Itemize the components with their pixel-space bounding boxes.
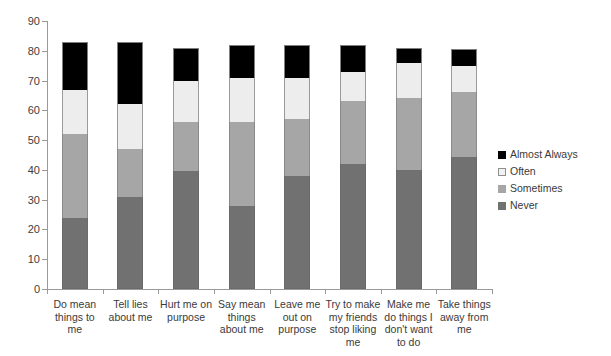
chart-legend: Almost AlwaysOftenSometimesNever xyxy=(498,146,610,214)
legend-item-label: Often xyxy=(510,166,536,177)
bar-segment-sometimes[interactable] xyxy=(340,101,366,164)
legend-item-label: Never xyxy=(510,200,538,211)
bar-group xyxy=(381,21,437,289)
legend-item[interactable]: Sometimes xyxy=(498,180,610,197)
bar-segment-sometimes[interactable] xyxy=(284,119,310,176)
x-axis-tick xyxy=(270,289,271,294)
x-axis-category-label: Tell lies about me xyxy=(103,298,159,323)
stacked-bar[interactable] xyxy=(396,48,422,289)
x-axis-category-label: Try to make my friends stop liking me xyxy=(325,298,381,348)
bar-segment-often[interactable] xyxy=(396,63,422,99)
bar-segment-almost-always[interactable] xyxy=(117,42,143,105)
y-axis-tick-label: 40 xyxy=(4,164,40,175)
bar-segment-sometimes[interactable] xyxy=(62,134,88,217)
bar-segment-often[interactable] xyxy=(340,72,366,102)
often-swatch-icon xyxy=(498,168,506,176)
bar-group xyxy=(158,21,214,289)
x-axis-category-label: Hurt me on purpose xyxy=(158,298,214,323)
legend-item[interactable]: Almost Always xyxy=(498,146,610,163)
x-axis-tick xyxy=(158,289,159,294)
x-axis-category-label: Make me do things I don't want to do xyxy=(381,298,437,348)
x-axis-category-label: Say mean things about me xyxy=(214,298,270,336)
bar-segment-almost-always[interactable] xyxy=(173,48,199,81)
x-axis-tick xyxy=(214,289,215,294)
bar-segment-never[interactable] xyxy=(451,157,477,290)
bar-segment-sometimes[interactable] xyxy=(396,98,422,169)
bar-segment-never[interactable] xyxy=(340,164,366,289)
bar-segment-never[interactable] xyxy=(117,197,143,289)
legend-item[interactable]: Often xyxy=(498,163,610,180)
bar-group xyxy=(325,21,381,289)
bar-segment-almost-always[interactable] xyxy=(396,48,422,63)
x-axis-category-label: Take things away from me xyxy=(436,298,492,336)
bar-segment-often[interactable] xyxy=(173,81,199,123)
bar-segment-often[interactable] xyxy=(229,78,255,123)
y-axis-tick-label: 90 xyxy=(4,16,40,27)
stacked-bar[interactable] xyxy=(451,49,477,289)
x-axis-tick xyxy=(492,289,493,294)
stacked-bar[interactable] xyxy=(173,48,199,289)
y-axis-tick-label: 0 xyxy=(4,284,40,295)
x-axis-category-label: Leave me out on purpose xyxy=(270,298,326,336)
y-axis-tick-label: 20 xyxy=(4,224,40,235)
legend-item-label: Almost Always xyxy=(510,149,578,160)
bar-segment-almost-always[interactable] xyxy=(229,45,255,78)
y-axis-tick-label: 60 xyxy=(4,105,40,116)
stacked-bar[interactable] xyxy=(62,42,88,289)
bar-segment-often[interactable] xyxy=(117,104,143,149)
x-axis-tick xyxy=(103,289,104,294)
bar-group xyxy=(47,21,103,289)
x-axis-tick xyxy=(436,289,437,294)
x-axis-category-label: Do mean things to me xyxy=(47,298,103,336)
bar-segment-almost-always[interactable] xyxy=(340,45,366,72)
bar-group xyxy=(214,21,270,289)
bar-group xyxy=(436,21,492,289)
legend-item[interactable]: Never xyxy=(498,197,610,214)
bar-segment-never[interactable] xyxy=(62,218,88,289)
bar-segment-often[interactable] xyxy=(62,90,88,135)
bar-segment-often[interactable] xyxy=(284,78,310,120)
legend-item-label: Sometimes xyxy=(510,183,563,194)
stacked-bar[interactable] xyxy=(284,45,310,289)
bar-segment-almost-always[interactable] xyxy=(62,42,88,90)
bar-segment-never[interactable] xyxy=(229,206,255,289)
bar-segment-almost-always[interactable] xyxy=(451,49,477,65)
y-axis-tick-label: 80 xyxy=(4,45,40,56)
y-axis-tick-label: 10 xyxy=(4,254,40,265)
y-axis-tick-label: 70 xyxy=(4,75,40,86)
x-axis-tick xyxy=(381,289,382,294)
bar-segment-sometimes[interactable] xyxy=(229,122,255,205)
sometimes-swatch-icon xyxy=(498,185,506,193)
x-axis-tick xyxy=(47,289,48,294)
stacked-bar[interactable] xyxy=(229,45,255,289)
bar-segment-sometimes[interactable] xyxy=(117,149,143,197)
almost-always-swatch-icon xyxy=(498,151,506,159)
plot-area xyxy=(47,21,492,289)
bar-segment-often[interactable] xyxy=(451,66,477,93)
stacked-bar[interactable] xyxy=(117,42,143,289)
bar-segment-almost-always[interactable] xyxy=(284,45,310,78)
bar-group xyxy=(270,21,326,289)
x-axis-labels: Do mean things to meTell lies about meHu… xyxy=(47,298,493,356)
y-axis-labels: 0102030405060708090 xyxy=(0,0,40,356)
x-axis-tick xyxy=(325,289,326,294)
bar-segment-never[interactable] xyxy=(173,171,199,289)
bar-segment-sometimes[interactable] xyxy=(173,122,199,171)
never-swatch-icon xyxy=(498,202,506,210)
stacked-bar-chart: 0102030405060708090 Do mean things to me… xyxy=(0,0,611,356)
bar-segment-never[interactable] xyxy=(396,170,422,289)
bar-segment-never[interactable] xyxy=(284,176,310,289)
stacked-bar[interactable] xyxy=(340,45,366,289)
bar-segment-sometimes[interactable] xyxy=(451,92,477,156)
y-axis-tick-label: 50 xyxy=(4,135,40,146)
y-axis-tick-label: 30 xyxy=(4,194,40,205)
bar-group xyxy=(103,21,159,289)
